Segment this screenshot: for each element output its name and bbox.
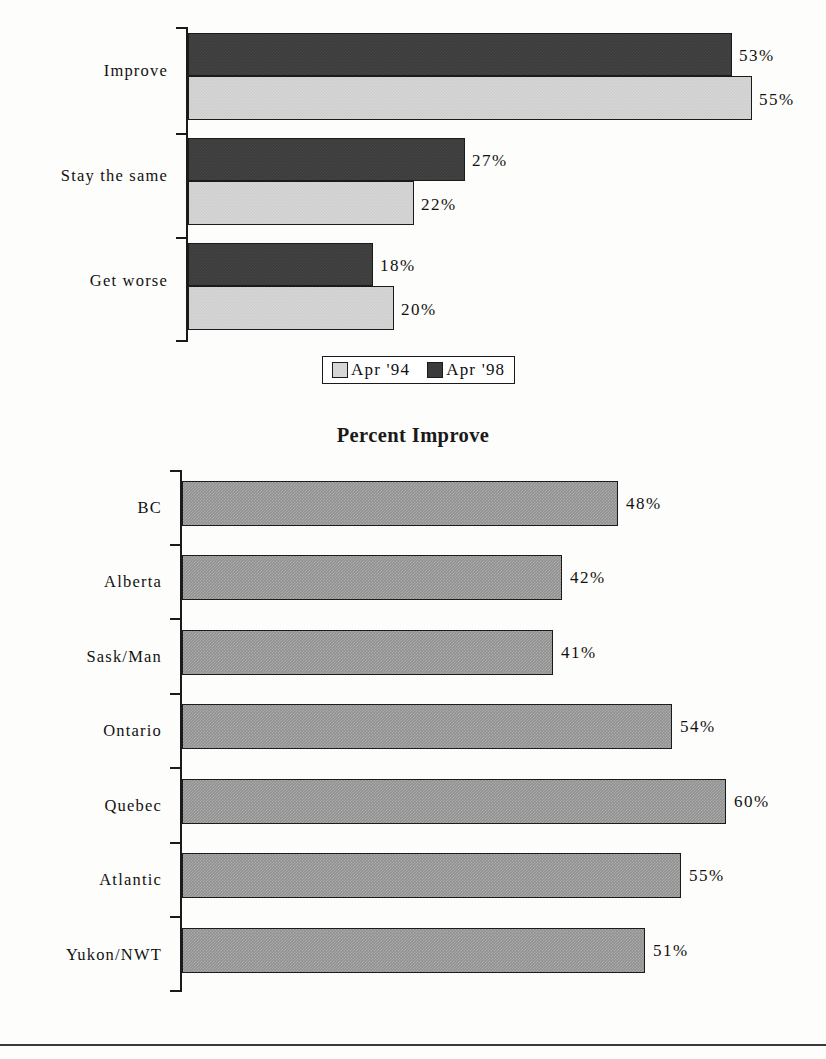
value-label-yukon-nwt: 51%: [653, 942, 689, 959]
category-label-atlantic: Atlantic: [0, 872, 162, 889]
y-axis-tick-6: [170, 916, 182, 918]
bar-atlantic: [182, 853, 681, 898]
y-axis-tick-1: [176, 133, 188, 135]
axis-cap-bottom: [170, 990, 182, 992]
category-label-bc: BC: [0, 500, 162, 517]
y-axis-tick-2: [176, 237, 188, 239]
bar-alberta: [182, 555, 562, 600]
value-label-get-worse-apr94: 20%: [401, 301, 437, 318]
page-title-percent-improve: Percent Improve: [0, 424, 826, 447]
category-label-stay-the-same: Stay the same: [0, 168, 168, 185]
value-label-stay-the-same-apr94: 22%: [421, 196, 457, 213]
legend-item-apr94[interactable]: Apr '94: [332, 361, 410, 378]
footer-divider: [0, 1044, 826, 1046]
axis-cap-bottom: [176, 340, 188, 342]
category-label-improve: Improve: [0, 63, 168, 80]
legend-swatch-dark-icon: [427, 362, 443, 378]
bar-get-worse-apr94: [188, 286, 394, 330]
category-label-quebec: Quebec: [0, 798, 162, 815]
legend-swatch-light-icon: [332, 362, 348, 378]
bar-improve-apr98: [188, 33, 732, 76]
y-axis-tick-4: [170, 767, 182, 769]
y-axis-tick-3: [170, 693, 182, 695]
y-axis-tick-1: [170, 544, 182, 546]
bar-quebec: [182, 779, 726, 824]
bar-stay-the-same-apr94: [188, 181, 414, 225]
axis-cap-top: [176, 27, 188, 29]
value-label-quebec: 60%: [734, 793, 770, 810]
chart-legend: Apr '94 Apr '98: [322, 356, 515, 384]
grouped-bar-chart-outlook: Improve 53% 55% Stay the same 27% 22% Ge…: [0, 0, 826, 400]
value-label-atlantic: 55%: [689, 867, 725, 884]
y-axis-tick-5: [170, 842, 182, 844]
value-label-alberta: 42%: [570, 569, 606, 586]
value-label-sask-man: 41%: [561, 644, 597, 661]
value-label-bc: 48%: [626, 495, 662, 512]
legend-label-apr94: Apr '94: [351, 361, 410, 378]
bar-improve-apr94: [188, 76, 752, 120]
category-label-yukon-nwt: Yukon/NWT: [0, 947, 162, 964]
category-label-get-worse: Get worse: [0, 273, 168, 290]
bar-yukon-nwt: [182, 928, 645, 973]
legend-item-apr98[interactable]: Apr '98: [427, 361, 505, 378]
bar-ontario: [182, 704, 672, 749]
value-label-improve-apr94: 55%: [759, 91, 795, 108]
bar-stay-the-same-apr98: [188, 138, 465, 181]
bar-chart-percent-improve: Percent Improve BC 48% Alberta 42% Sask/…: [0, 424, 826, 1014]
legend-label-apr98: Apr '98: [446, 361, 505, 378]
value-label-improve-apr98: 53%: [739, 47, 775, 64]
value-label-stay-the-same-apr98: 27%: [472, 152, 508, 169]
category-label-ontario: Ontario: [0, 723, 162, 740]
category-label-sask-man: Sask/Man: [0, 649, 162, 666]
bar-bc: [182, 481, 618, 526]
value-label-get-worse-apr98: 18%: [380, 257, 416, 274]
bar-get-worse-apr98: [188, 243, 373, 286]
axis-cap-top: [170, 470, 182, 472]
value-label-ontario: 54%: [680, 718, 716, 735]
category-label-alberta: Alberta: [0, 574, 162, 591]
bar-sask-man: [182, 630, 553, 675]
y-axis-tick-2: [170, 618, 182, 620]
